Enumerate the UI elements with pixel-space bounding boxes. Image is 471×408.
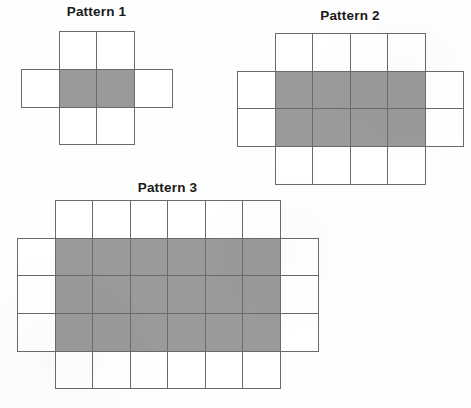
pattern-1: Pattern 1 [0, 0, 471, 408]
pattern-2-cell-shaded [275, 71, 314, 110]
pattern-3-cell-shaded [92, 238, 131, 277]
pattern-3-cell-shaded [92, 313, 131, 352]
pattern-1-cell-unshaded [134, 69, 173, 108]
pattern-3-title: Pattern 3 [17, 180, 318, 195]
pattern-2-cell-unshaded [387, 146, 426, 185]
pattern-3-cell-shaded [167, 313, 206, 352]
pattern-3-cell-shaded [242, 313, 281, 352]
pattern-2-cell-unshaded [350, 33, 389, 72]
pattern-3-cell-shaded [167, 275, 206, 314]
pattern-2-cell-unshaded [425, 108, 464, 147]
pattern-2-cell-unshaded [237, 108, 276, 147]
pattern-1-cell-unshaded [21, 69, 60, 108]
pattern-3-cell-unshaded [242, 350, 281, 389]
pattern-1-cell-unshaded [59, 106, 98, 145]
pattern-2-cell-shaded [350, 108, 389, 147]
pattern-3-cell-unshaded [92, 200, 131, 239]
pattern-3-cell-shaded [167, 238, 206, 277]
pattern-2-cell-unshaded [237, 71, 276, 110]
pattern-2-cell-shaded [275, 108, 314, 147]
pattern-3-cell-unshaded [92, 350, 131, 389]
pattern-1-cell-unshaded [96, 106, 135, 145]
pattern-1-cell-unshaded [96, 31, 135, 70]
pattern-1-title: Pattern 1 [21, 4, 172, 19]
pattern-3-cell-shaded [205, 275, 244, 314]
pattern-2-cell-shaded [312, 71, 351, 110]
pattern-3-cell-unshaded [167, 200, 206, 239]
pattern-3-cell-unshaded [17, 313, 56, 352]
pattern-1-cell-shaded [59, 69, 98, 108]
pattern-3-cell-unshaded [55, 200, 94, 239]
pattern-3-cell-unshaded [130, 350, 169, 389]
pattern-2-title: Pattern 2 [237, 8, 463, 23]
pattern-3-cell-unshaded [17, 275, 56, 314]
pattern-1-cell-shaded [96, 69, 135, 108]
pattern-3-cell-unshaded [55, 350, 94, 389]
pattern-3-cell-unshaded [130, 200, 169, 239]
pattern-2-cell-unshaded [275, 146, 314, 185]
pattern-3-cell-unshaded [280, 313, 319, 352]
pattern-3-cell-unshaded [167, 350, 206, 389]
pattern-2-cell-shaded [387, 71, 426, 110]
pattern-3-cell-shaded [130, 313, 169, 352]
pattern-2-cell-unshaded [350, 146, 389, 185]
pattern-3-cell-shaded [55, 238, 94, 277]
pattern-3-cell-unshaded [205, 350, 244, 389]
pattern-2-cell-unshaded [312, 146, 351, 185]
pattern-2-cell-shaded [350, 71, 389, 110]
pattern-2-cell-unshaded [387, 33, 426, 72]
pattern-2-cell-shaded [312, 108, 351, 147]
pattern-3-cell-unshaded [242, 200, 281, 239]
pattern-2-cell-unshaded [425, 71, 464, 110]
pattern-3-cell-shaded [130, 238, 169, 277]
pattern-3-cell-shaded [55, 275, 94, 314]
pattern-3-cell-shaded [242, 275, 281, 314]
pattern-3-cell-unshaded [280, 275, 319, 314]
pattern-3: Pattern 3 [0, 0, 471, 408]
pattern-2-cell-unshaded [275, 33, 314, 72]
pattern-3-cell-shaded [205, 313, 244, 352]
pattern-2-cell-shaded [387, 108, 426, 147]
pattern-3-cell-shaded [242, 238, 281, 277]
pattern-3-cell-unshaded [280, 238, 319, 277]
pattern-3-cell-shaded [130, 275, 169, 314]
pattern-1-cell-unshaded [59, 31, 98, 70]
pattern-3-cell-unshaded [205, 200, 244, 239]
pattern-3-cell-shaded [92, 275, 131, 314]
pattern-2: Pattern 2 [0, 0, 471, 408]
pattern-3-cell-shaded [205, 238, 244, 277]
pattern-3-cell-unshaded [17, 238, 56, 277]
pattern-2-cell-unshaded [312, 33, 351, 72]
pattern-sequence-figure: Pattern 1Pattern 2Pattern 3 [0, 0, 471, 408]
pattern-3-cell-shaded [55, 313, 94, 352]
